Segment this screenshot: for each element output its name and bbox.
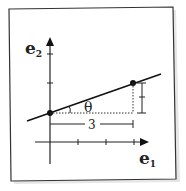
angle-label: θ	[84, 99, 92, 115]
run-label: 3	[88, 118, 96, 132]
paper-frame	[9, 7, 176, 181]
diagram-canvas: θ 3 e2 e1	[0, 0, 186, 191]
